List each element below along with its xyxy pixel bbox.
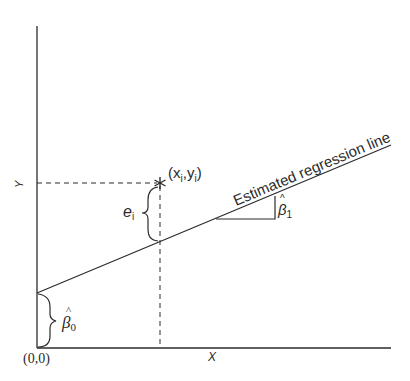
residual-brace-icon <box>142 187 158 241</box>
intercept-label: β0 <box>61 313 76 333</box>
residual-label: ei <box>123 203 134 222</box>
regression-line-label: Estimated regression line <box>231 128 393 209</box>
y-axis-label: Y <box>13 180 25 188</box>
x-axis-label: X <box>207 350 217 364</box>
regression-line <box>37 145 391 293</box>
slope-label: β1 <box>277 201 293 220</box>
regression-diagram: (xi,yi) ei ^ β1 Estimated regression lin… <box>0 0 410 381</box>
point-label: (xi,yi) <box>168 164 202 184</box>
origin-label: (0,0) <box>23 351 50 367</box>
intercept-brace-icon <box>38 294 56 347</box>
